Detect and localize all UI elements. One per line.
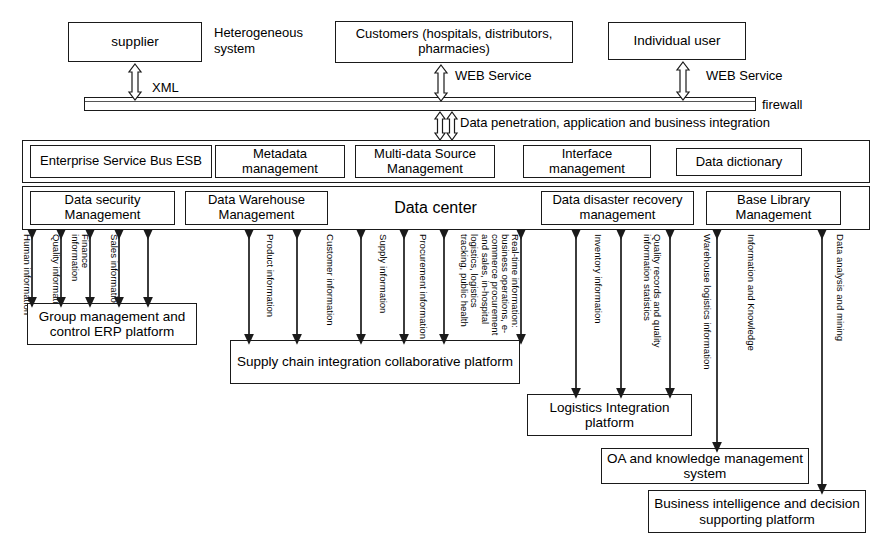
hollow-arrow-supplier — [129, 64, 141, 100]
multi-data-source-box: Multi-data Source Management — [355, 145, 495, 178]
flow-information-and-knowledge: Information and Knowledge — [730, 234, 756, 354]
data-warehouse-management-box: Data Warehouse Management — [185, 191, 328, 225]
data-center-box: Data center — [332, 189, 539, 227]
data-disaster-recovery-box-label: Data disaster recovery management — [542, 193, 693, 222]
architecture-diagram: supplier Customers (hospitals, distribut… — [0, 0, 892, 560]
base-library-management-box-label: Base Library Management — [707, 193, 840, 222]
esb-box-label: Enterprise Service Bus ESB — [37, 154, 205, 169]
data-dictionary-box: Data dictionary — [676, 148, 802, 176]
data-security-management-box-label: Data security Management — [31, 193, 174, 222]
flow-quality-records: Quality records and quality information … — [636, 234, 662, 394]
flow-data-analysis-and-mining: Data analysis and mining — [832, 234, 845, 364]
data-disaster-recovery-box: Data disaster recovery management — [541, 191, 694, 225]
hollow-arrow-data-penetration — [435, 112, 457, 140]
logistics-integration-platform-box: Logistics Integration platform — [527, 394, 692, 436]
web-service-label-individual: WEB Service — [706, 68, 783, 84]
flow-inventory-information: Inventory information — [590, 234, 603, 394]
supplier-box: supplier — [68, 22, 202, 62]
firewall-bar — [84, 97, 756, 111]
business-intelligence-box-label: Business intelligence and decision suppo… — [649, 496, 865, 526]
oa-knowledge-system-box-label: OA and knowledge management system — [602, 451, 808, 481]
base-library-management-box: Base Library Management — [706, 191, 841, 225]
xml-label: XML — [152, 80, 179, 96]
flow-warehouse-logistics-information: Warehouse logistics information — [686, 234, 712, 394]
supply-chain-platform-box: Supply chain integration collaborative p… — [230, 340, 520, 384]
flow-supply-information: Supply information — [375, 234, 388, 344]
data-dictionary-box-label: Data dictionary — [693, 155, 786, 170]
supplier-box-label: supplier — [108, 34, 161, 49]
data-center-box-label: Data center — [391, 199, 480, 217]
metadata-management-box-label: Metadata management — [216, 147, 344, 176]
metadata-management-box: Metadata management — [215, 145, 345, 178]
interface-management-box: Interface management — [523, 145, 651, 178]
business-intelligence-box: Business intelligence and decision suppo… — [648, 490, 866, 533]
flow-real-time-information: Real-time information: business operatio… — [452, 234, 520, 342]
heterogeneous-system-label: Heterogeneous system — [214, 25, 326, 56]
erp-platform-box: Group management and control ERP platfor… — [27, 303, 197, 345]
data-penetration-label: Data penetration, application and busine… — [460, 115, 770, 131]
hollow-arrow-individual-user — [677, 62, 689, 100]
data-security-management-box: Data security Management — [30, 191, 175, 225]
flow-product-information: Product information — [262, 234, 275, 344]
interface-management-box-label: Interface management — [524, 147, 650, 176]
data-warehouse-management-box-label: Data Warehouse Management — [186, 193, 327, 222]
hollow-arrow-customers — [435, 65, 447, 101]
individual-user-box-label: Individual user — [630, 33, 723, 48]
customers-box: Customers (hospitals, distributors, phar… — [335, 21, 573, 63]
supply-chain-platform-box-label: Supply chain integration collaborative p… — [234, 354, 516, 369]
erp-platform-box-label: Group management and control ERP platfor… — [28, 309, 196, 339]
flow-customer-information: Customer information — [322, 234, 335, 344]
firewall-label: firewall — [762, 97, 802, 113]
individual-user-box: Individual user — [608, 22, 746, 60]
web-service-label-customers: WEB Service — [455, 68, 532, 84]
flow-procurement-information: Procurement information — [415, 234, 428, 344]
logistics-integration-platform-box-label: Logistics Integration platform — [528, 400, 691, 430]
multi-data-source-box-label: Multi-data Source Management — [356, 147, 494, 176]
esb-box: Enterprise Service Bus ESB — [30, 145, 212, 178]
oa-knowledge-system-box: OA and knowledge management system — [601, 448, 809, 484]
customers-box-label: Customers (hospitals, distributors, phar… — [336, 27, 572, 56]
